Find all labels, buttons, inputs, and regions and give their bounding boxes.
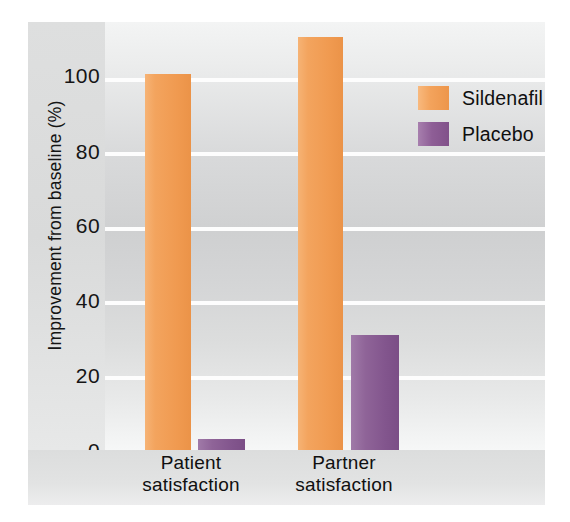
sildenafil-swatch-icon <box>418 86 449 110</box>
legend-entry-placebo: Placebo <box>418 122 543 146</box>
x-tick-patient-line1: Patient <box>111 452 271 474</box>
legend-label-sildenafil: Sildenafil <box>462 87 543 110</box>
y-tick-label-60: 60 <box>30 214 100 238</box>
bar-patient-sildenafil <box>145 74 191 450</box>
y-tick-label-80: 80 <box>30 140 100 164</box>
chart-figure: Improvement from baseline (%) 100 80 60 … <box>0 0 570 522</box>
y-tick-label-100: 100 <box>30 64 100 88</box>
y-tick-label-20: 20 <box>30 364 100 388</box>
legend-entry-sildenafil: Sildenafil <box>418 86 543 110</box>
x-tick-label-patient: Patient satisfaction <box>111 452 271 497</box>
x-tick-partner-line2: satisfaction <box>264 474 424 496</box>
legend-label-placebo: Placebo <box>462 123 534 146</box>
y-tick-label-40: 40 <box>30 289 100 313</box>
legend: Sildenafil Placebo <box>418 86 543 158</box>
x-tick-label-partner: Partner satisfaction <box>264 452 424 497</box>
bar-partner-sildenafil <box>298 37 343 450</box>
x-tick-patient-line2: satisfaction <box>111 474 271 496</box>
plot-area: Sildenafil Placebo <box>105 22 545 450</box>
bar-patient-placebo <box>198 439 245 450</box>
bar-partner-placebo <box>351 335 399 450</box>
x-tick-partner-line1: Partner <box>264 452 424 474</box>
placebo-swatch-icon <box>418 122 449 146</box>
